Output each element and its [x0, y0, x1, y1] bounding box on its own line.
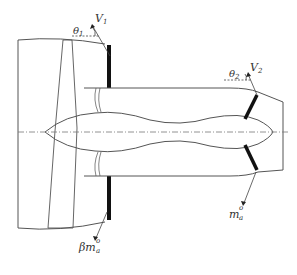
v1-label: V1	[95, 12, 107, 26]
core-mass-flow-arrow	[244, 172, 256, 203]
bypass-mass-flow-label: βm	[78, 241, 96, 254]
nacelle-outline	[18, 39, 105, 229]
bypass-mass-flow-sup: o	[96, 237, 100, 245]
bypass-mass-flow-sub: a	[96, 247, 100, 255]
core-exit-plane-top	[245, 95, 257, 119]
fan-blade	[48, 40, 77, 228]
core-mass-flow-sub: a	[239, 214, 243, 222]
turbofan-diagram: θ1 V1 θ2 V2 m o a βm o a	[0, 0, 297, 275]
core-mass-flow-label: m	[229, 208, 239, 221]
fan-exit-plane-bottom	[107, 176, 111, 220]
core-mass-flow-sup: o	[239, 204, 243, 212]
bypass-mass-flow-arrow	[96, 212, 107, 238]
theta1-label: θ1	[73, 25, 84, 38]
v2-label: V2	[250, 61, 263, 75]
theta2-label: θ2	[229, 68, 240, 81]
core-exit-plane-bottom	[245, 145, 257, 170]
